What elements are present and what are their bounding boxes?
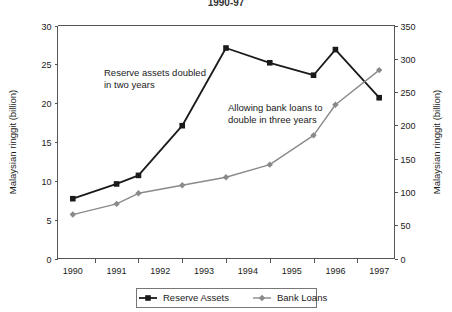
left-tick-label: 20 <box>41 99 51 109</box>
x-tick-label-1997: 1997 <box>369 266 389 276</box>
right-tick-label: 150 <box>401 155 416 165</box>
chart-container: 1990-97 051015202530 0501001502002503003… <box>0 0 452 312</box>
left-axis-title: Malaysian ringgit (billion) <box>7 90 18 195</box>
left-axis-ticks: 051015202530 <box>41 22 57 265</box>
data-point-marker <box>179 182 185 188</box>
left-tick-label: 5 <box>46 216 51 226</box>
data-point-marker <box>114 181 120 187</box>
right-axis-title: Malaysian ringgit (billion) <box>431 90 442 195</box>
data-point-marker <box>311 72 317 78</box>
legend-label: Reserve Assets <box>163 292 229 303</box>
loans-annotation-line1: Allowing bank loans to <box>228 102 323 113</box>
x-tick-label-1990: 1990 <box>63 266 83 276</box>
right-tick-label: 350 <box>401 22 416 32</box>
series-line <box>73 70 379 214</box>
data-point-marker <box>70 196 76 202</box>
right-tick-label: 200 <box>401 121 416 131</box>
axes <box>58 26 395 259</box>
right-tick-label: 0 <box>401 255 406 265</box>
right-tick-label: 300 <box>401 55 416 65</box>
data-point-marker <box>70 211 76 217</box>
annotation-reserve-assets: Reserve assets doubled in two years <box>104 67 206 90</box>
left-tick-label: 25 <box>41 60 51 70</box>
right-tick-label: 250 <box>401 88 416 98</box>
data-point-marker <box>223 45 229 51</box>
x-tick-label-1995: 1995 <box>282 266 302 276</box>
data-point-marker <box>113 201 119 207</box>
left-tick-label: 30 <box>41 22 51 32</box>
chart-title: 1990-97 <box>208 0 245 8</box>
data-point-marker <box>223 174 229 180</box>
left-tick-label: 10 <box>41 177 51 187</box>
x-tick-label-1996: 1996 <box>325 266 345 276</box>
x-tick-label-1992: 1992 <box>150 266 170 276</box>
data-point-marker <box>145 295 151 301</box>
line-chart: 1990-97 051015202530 0501001502002503003… <box>0 0 452 312</box>
x-axis-ticks <box>96 259 358 263</box>
left-tick-label: 0 <box>46 255 51 265</box>
left-tick-label: 15 <box>41 138 51 148</box>
x-tick-label-1993: 1993 <box>194 266 214 276</box>
reserve-annotation-line2: in two years <box>104 79 155 90</box>
data-point-marker <box>267 60 273 66</box>
loans-annotation-line2: double in three years <box>228 114 317 125</box>
right-axis-ticks: 050100150200250300350 <box>395 22 416 265</box>
data-point-marker <box>376 95 382 101</box>
x-axis-labels: 19901991199219931994199519961997 <box>63 266 389 276</box>
data-point-marker <box>179 123 185 129</box>
legend-label: Bank Loans <box>277 292 327 303</box>
right-tick-label: 50 <box>401 221 411 231</box>
annotation-bank-loans: Allowing bank loans to double in three y… <box>228 102 323 125</box>
x-tick-label-1994: 1994 <box>238 266 258 276</box>
right-tick-label: 100 <box>401 188 416 198</box>
x-tick-label-1991: 1991 <box>107 266 127 276</box>
chart-legend: Reserve AssetsBank Loans <box>137 289 328 308</box>
data-point-marker <box>136 173 142 179</box>
data-point-marker <box>135 190 141 196</box>
data-point-marker <box>333 47 339 53</box>
reserve-annotation-line1: Reserve assets doubled <box>104 67 206 78</box>
